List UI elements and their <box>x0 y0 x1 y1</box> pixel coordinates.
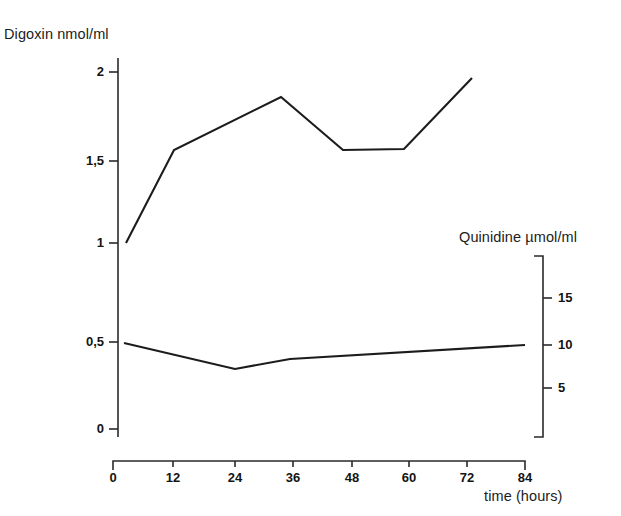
digoxin-curve <box>126 78 472 243</box>
x-axis <box>113 461 525 470</box>
chart-figure: Digoxin nmol/ml Quinidine µmol/ml time (… <box>0 0 621 516</box>
right-axis <box>534 256 552 437</box>
chart-plot-svg <box>0 0 621 516</box>
left-axis <box>109 58 118 437</box>
quinidine-curve <box>124 343 525 369</box>
